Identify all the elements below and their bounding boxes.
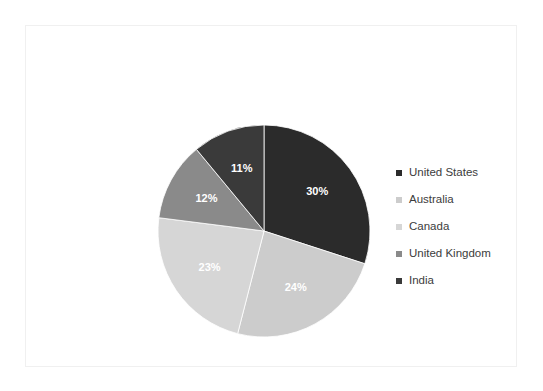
chart-plot-frame: 30%24%23%12%11% United StatesAustraliaCa…	[25, 25, 517, 367]
legend-swatch-icon	[396, 251, 402, 257]
legend-item[interactable]: Australia	[396, 186, 543, 213]
legend-item[interactable]: United States	[396, 159, 543, 186]
pie-slice-label: 24%	[285, 281, 307, 293]
pie-slice-label: 30%	[306, 185, 328, 197]
pie-chart-svg: 30%24%23%12%11%	[158, 125, 370, 337]
legend-item-label: United States	[409, 167, 478, 179]
legend-item[interactable]: Canada	[396, 213, 543, 240]
pie-slice-label: 23%	[199, 261, 221, 273]
chart-canvas: 30%24%23%12%11% United StatesAustraliaCa…	[0, 0, 543, 391]
legend-swatch-icon	[396, 224, 402, 230]
pie-slice-label: 12%	[195, 192, 217, 204]
legend-item[interactable]: United Kingdom	[396, 240, 543, 267]
legend-item-label: Australia	[409, 194, 454, 206]
pie-chart: 30%24%23%12%11%	[158, 125, 370, 337]
chart-legend: United StatesAustraliaCanadaUnited Kingd…	[396, 159, 543, 294]
legend-item-label: United Kingdom	[409, 248, 491, 260]
legend-item-label: Canada	[409, 221, 449, 233]
legend-swatch-icon	[396, 197, 402, 203]
legend-item-label: India	[409, 275, 434, 287]
legend-swatch-icon	[396, 170, 402, 176]
legend-item[interactable]: India	[396, 267, 543, 294]
legend-swatch-icon	[396, 278, 402, 284]
pie-slice-label: 11%	[231, 162, 253, 174]
pie-slice-group	[158, 125, 370, 337]
